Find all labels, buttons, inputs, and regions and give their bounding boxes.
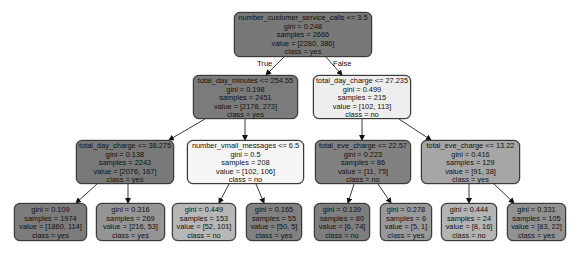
tree-leaf: gini = 0.444 samples = 24 value = [8, 16… <box>441 203 497 241</box>
node-class: class = no <box>315 232 369 241</box>
tree-leaf: gini = 0.278 samples = 6 value = [5, 1] … <box>380 203 432 241</box>
node-class: class = yes <box>77 176 173 185</box>
tree-node-number-vmail-messages: number_vmail_messages <= 6.5 gini = 0.5 … <box>187 140 304 184</box>
node-class: class = yes <box>247 232 301 241</box>
tree-leaf: gini = 0.109 samples = 1974 value = [186… <box>14 203 87 241</box>
node-class: class = no <box>442 232 496 241</box>
edge-label-false: False <box>333 59 352 68</box>
decision-tree-diagram: True False number_customer_service_calls… <box>0 0 578 258</box>
node-class: class = no <box>173 232 235 241</box>
node-class: class = no <box>188 176 303 185</box>
node-class: class = yes <box>97 232 164 241</box>
tree-node-total-day-charge-27: total_day_charge <= 27.235 gini = 0.499 … <box>313 75 411 119</box>
node-class: class = no <box>314 111 410 120</box>
node-class: class = yes <box>422 176 519 185</box>
tree-leaf: gini = 0.316 samples = 269 value = [216,… <box>96 203 165 241</box>
tree-leaf: gini = 0.165 samples = 55 value = [50, 5… <box>246 203 302 241</box>
node-class: class = yes <box>15 232 86 241</box>
node-class: class = yes <box>235 48 371 57</box>
node-class: class = yes <box>381 232 431 241</box>
tree-node-root: number_customer_service_calls <= 3.5 gin… <box>234 12 372 57</box>
tree-leaf: gini = 0.139 samples = 80 value = [6, 74… <box>314 203 370 241</box>
tree-leaf: gini = 0.449 samples = 153 value = [52, … <box>172 203 236 241</box>
node-class: class = no <box>316 176 410 185</box>
tree-node-total-eve-charge-13: total_eve_charge <= 13.22 gini = 0.416 s… <box>421 140 520 184</box>
node-class: class = yes <box>194 111 297 120</box>
tree-node-total-eve-charge-22: total_eve_charge <= 22.57 gini = 0.223 s… <box>315 140 411 184</box>
edge-label-true: True <box>257 59 272 68</box>
tree-node-total-day-charge-38: total_day_charge <= 38.275 gini = 0.138 … <box>76 140 174 184</box>
tree-node-total-day-minutes: total_day_minutes <= 254.55 gini = 0.198… <box>193 75 298 119</box>
tree-leaf: gini = 0.331 samples = 105 value = [83, … <box>507 203 566 241</box>
node-class: class = yes <box>508 232 565 241</box>
